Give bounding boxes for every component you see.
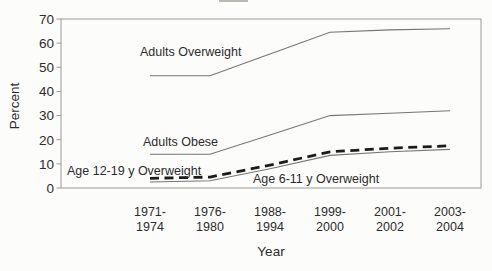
x-tick-label: 1971-1974 (134, 205, 166, 234)
y-tick-label: 10 (39, 157, 54, 172)
x-tick-label: 1988-1994 (254, 205, 286, 234)
x-axis-title: Year (241, 244, 301, 260)
y-axis-title: Percent (7, 76, 23, 136)
series-label: Age 6-11 y Overweight (253, 172, 380, 186)
plot-frame (61, 19, 481, 188)
y-tick-label: 70 (39, 12, 54, 27)
x-tick-label: 2001-2002 (374, 205, 406, 234)
y-tick-label: 60 (39, 36, 54, 51)
y-tick-label: 0 (46, 181, 54, 196)
series-label: Adults Obese (143, 135, 218, 149)
series-label: Age 12-19 y Overweight (67, 164, 202, 178)
x-tick-label: 1976-1980 (194, 205, 226, 234)
y-tick-label: 40 (39, 84, 54, 99)
chart-canvas: 0102030405060701971-19741976-19801988-19… (0, 0, 492, 271)
chart-figure: 0102030405060701971-19741976-19801988-19… (0, 0, 492, 271)
x-tick-label: 2003-2004 (434, 205, 466, 234)
y-tick-label: 30 (39, 108, 54, 123)
y-tick-label: 50 (39, 60, 54, 75)
series-label: Adults Overweight (140, 45, 242, 59)
y-tick-label: 20 (39, 133, 54, 148)
x-tick-label: 1999-2000 (314, 205, 346, 234)
